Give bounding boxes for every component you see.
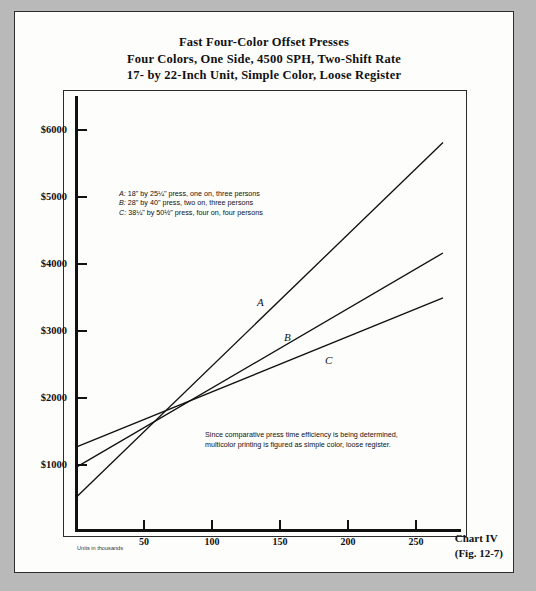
legend-item-a: A: 18" by 25¼" press, one on, three pers… xyxy=(119,189,263,198)
y-tick-1000 xyxy=(78,464,87,466)
title-line-3: 17- by 22-Inch Unit, Simple Color, Loose… xyxy=(15,67,513,84)
caption-line-2: (Fig. 12-7) xyxy=(455,546,503,561)
caption-line-1: Chart IV xyxy=(455,531,503,546)
plot-frame xyxy=(63,90,467,537)
x-tick-50 xyxy=(143,520,145,529)
title-line-2: Four Colors, One Side, 4500 SPH, Two-Shi… xyxy=(15,51,513,68)
y-tick-label-5000: $5000 xyxy=(23,191,67,202)
footnote: Since comparative press time efficiency … xyxy=(205,430,398,450)
y-tick-2000 xyxy=(78,397,87,399)
chart-title-block: Fast Four-Color Offset Presses Four Colo… xyxy=(15,34,513,84)
x-axis xyxy=(75,529,461,532)
y-tick-label-1000: $1000 xyxy=(23,459,67,470)
legend-item-b: B: 28" by 40" press, two on, three perso… xyxy=(119,198,263,207)
chart-caption: Chart IV (Fig. 12-7) xyxy=(455,531,503,561)
y-tick-label-3000: $3000 xyxy=(23,325,67,336)
y-tick-5000 xyxy=(78,196,87,198)
x-tick-label-50: 50 xyxy=(124,536,164,547)
x-tick-label-200: 200 xyxy=(328,536,368,547)
units-note: Units in thousands xyxy=(77,545,123,551)
legend-key-b: B: xyxy=(119,198,126,207)
y-tick-label-2000: $2000 xyxy=(23,392,67,403)
legend-item-c: C: 38¼" by 50½" press, four on, four per… xyxy=(119,208,263,217)
series-label-c: C xyxy=(325,354,332,366)
y-axis xyxy=(75,96,78,532)
x-tick-label-100: 100 xyxy=(192,536,232,547)
y-tick-label-6000: $6000 xyxy=(23,124,67,135)
chart-page: Fast Four-Color Offset Presses Four Colo… xyxy=(14,11,514,573)
title-line-1: Fast Four-Color Offset Presses xyxy=(15,34,513,51)
legend-text-a: 18" by 25¼" press, one on, three persons xyxy=(126,189,260,198)
x-tick-200 xyxy=(347,520,349,529)
x-tick-250 xyxy=(415,520,417,529)
legend-text-c: 38¼" by 50½" press, four on, four person… xyxy=(126,208,263,217)
x-tick-label-150: 150 xyxy=(260,536,300,547)
x-tick-100 xyxy=(211,520,213,529)
x-tick-150 xyxy=(279,520,281,529)
y-tick-3000 xyxy=(78,330,87,332)
footnote-line-2: multicolor printing is figured as simple… xyxy=(205,440,398,450)
legend-text-b: 28" by 40" press, two on, three persons xyxy=(126,198,253,207)
legend-key-a: A: xyxy=(119,189,126,198)
footnote-line-1: Since comparative press time efficiency … xyxy=(205,430,398,440)
series-label-b: B xyxy=(284,331,291,343)
legend: A: 18" by 25¼" press, one on, three pers… xyxy=(119,189,263,217)
y-tick-6000 xyxy=(78,129,87,131)
y-tick-label-4000: $4000 xyxy=(23,258,67,269)
y-tick-4000 xyxy=(78,263,87,265)
series-label-a: A xyxy=(257,296,264,308)
x-tick-label-250: 250 xyxy=(396,536,436,547)
